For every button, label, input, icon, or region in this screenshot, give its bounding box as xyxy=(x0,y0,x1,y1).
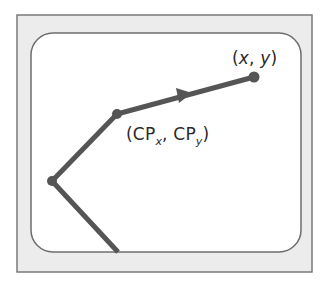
label-sep: , xyxy=(162,124,173,144)
vertex-point xyxy=(47,176,57,186)
label-x: x xyxy=(239,48,249,68)
label-paren-open: ( xyxy=(126,124,133,144)
endpoint-marker xyxy=(249,72,260,83)
label-cp-y: CP xyxy=(173,124,196,144)
label-cp-x: CP xyxy=(133,124,156,144)
label-sep: , xyxy=(249,48,260,68)
endpoint-label: (x, y) xyxy=(232,48,277,68)
label-paren-close: ) xyxy=(271,48,278,68)
label-paren-open: ( xyxy=(232,48,239,68)
current-point-label: (CPx, CPy) xyxy=(126,124,209,144)
current-point-marker xyxy=(112,109,122,119)
label-subscript-y: y xyxy=(196,135,203,148)
label-y: y xyxy=(260,48,270,68)
label-subscript-x: x xyxy=(155,135,162,148)
label-paren-close: ) xyxy=(203,124,210,144)
